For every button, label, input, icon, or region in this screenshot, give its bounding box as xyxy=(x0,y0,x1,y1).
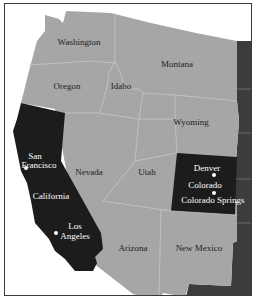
map-frame: Washington Oregon Idaho Montana Wyoming … xyxy=(4,3,252,296)
label-new-mexico: New Mexico xyxy=(176,243,223,253)
label-oregon: Oregon xyxy=(54,81,81,91)
label-idaho: Idaho xyxy=(111,81,132,91)
city-marker-san-francisco xyxy=(24,166,28,170)
label-colorado-springs: Colorado Springs xyxy=(181,195,244,205)
label-washington: Washington xyxy=(58,37,101,47)
label-california: California xyxy=(33,191,70,201)
label-utah: Utah xyxy=(138,167,156,177)
label-los-angeles-line2: Angeles xyxy=(60,231,90,241)
label-los-angeles-line1: Los xyxy=(68,221,82,231)
label-colorado: Colorado xyxy=(188,180,222,190)
city-marker-denver xyxy=(212,173,216,177)
label-arizona: Arizona xyxy=(119,243,148,253)
label-denver: Denver xyxy=(194,163,221,173)
label-wyoming: Wyoming xyxy=(173,117,208,127)
city-marker-los-angeles xyxy=(54,231,58,235)
label-montana: Montana xyxy=(161,59,193,69)
label-nevada: Nevada xyxy=(75,167,102,177)
